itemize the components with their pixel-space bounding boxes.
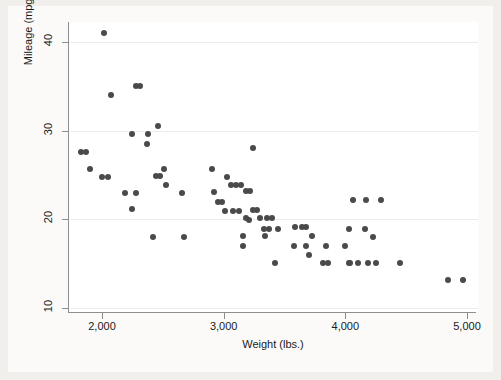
x-tick-label: 4,000 (315, 320, 375, 332)
scatter-point (306, 252, 312, 258)
x-tick-mark (224, 313, 225, 319)
scatter-point (346, 226, 352, 232)
scatter-point (373, 260, 379, 266)
scatter-point (181, 234, 187, 240)
y-tick-mark (62, 308, 68, 309)
scatter-point (161, 166, 167, 172)
x-axis-title: Weight (lbs.) (68, 338, 478, 350)
y-tick-label: 30 (42, 119, 54, 139)
scatter-point (355, 260, 361, 266)
scatter-point (347, 260, 353, 266)
scatter-point (108, 92, 114, 98)
y-axis-title: Mileage (mpg) (22, 0, 34, 100)
scatter-point (238, 182, 244, 188)
y-tick-label: 40 (42, 30, 54, 50)
scatter-point (272, 260, 278, 266)
scatter-point (362, 226, 368, 232)
scatter-point (460, 277, 466, 283)
y-tick-label: 20 (42, 207, 54, 227)
gridline-y (68, 308, 478, 309)
x-tick-mark (467, 313, 468, 319)
scatter-point (266, 226, 272, 232)
figure-canvas: 10203040 2,0003,0004,0005,000 Weight (lb… (0, 0, 501, 380)
x-tick-label: 3,000 (194, 320, 254, 332)
y-axis-line (68, 22, 69, 313)
plot-region (68, 22, 478, 312)
scatter-point (133, 190, 139, 196)
gridline-y (68, 42, 478, 43)
scatter-point (350, 197, 356, 203)
scatter-point (83, 149, 89, 155)
scatter-point (445, 277, 451, 283)
scatter-point (323, 243, 329, 249)
scatter-point (211, 189, 217, 195)
scatter-point (122, 190, 128, 196)
y-tick-mark (62, 219, 68, 220)
x-tick-mark (102, 313, 103, 319)
x-tick-mark (345, 313, 346, 319)
scatter-point (209, 166, 215, 172)
scatter-point (363, 197, 369, 203)
scatter-point (144, 141, 150, 147)
scatter-point (378, 197, 384, 203)
scatter-point (87, 166, 93, 172)
plot-area: 10203040 2,0003,0004,0005,000 Weight (lb… (0, 0, 501, 380)
y-tick-mark (62, 42, 68, 43)
y-tick-mark (62, 131, 68, 132)
x-tick-label: 5,000 (437, 320, 497, 332)
scatter-point (240, 243, 246, 249)
scatter-point (105, 174, 111, 180)
y-tick-label: 10 (42, 296, 54, 316)
x-axis-line (68, 312, 476, 313)
scatter-point (397, 260, 403, 266)
x-tick-label: 2,000 (72, 320, 132, 332)
